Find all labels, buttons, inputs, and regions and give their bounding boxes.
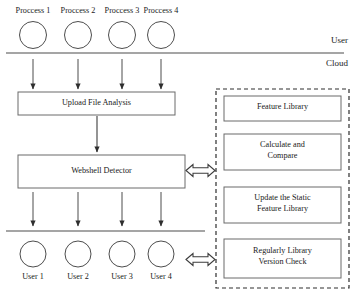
regularly-library-version-check-line-1: Regularly Library — [253, 246, 312, 255]
feature-library-label: Feature Library — [224, 102, 341, 113]
calculate-and-compare-label: Calculate and Compare — [224, 140, 341, 162]
user-circle-2 — [65, 241, 91, 267]
process-circle-3 — [109, 22, 136, 49]
calculate-and-compare-line-1: Calculate and — [260, 140, 305, 149]
update-static-feature-library-line-1: Update the Static — [254, 193, 310, 202]
process-circle-4 — [148, 22, 175, 49]
regularly-library-version-check-label: Regularly Library Version Check — [224, 246, 341, 268]
webshell-detector-label: Webshell Detector — [18, 166, 185, 177]
user-circle-3 — [109, 241, 135, 267]
process-label-4: Proccess 4 — [133, 6, 189, 17]
bidirectional-arrow-users-library — [186, 254, 215, 266]
user-label-4: User 4 — [133, 272, 189, 283]
webshell-architecture-diagram: User Cloud Proccess 1 Proccess 2 Procces… — [0, 0, 356, 300]
regularly-library-version-check-line-2: Version Check — [259, 257, 307, 266]
user-circle-4 — [148, 241, 174, 267]
bidirectional-arrow-detector-library — [186, 165, 215, 177]
process-circle-2 — [65, 22, 92, 49]
zone-label-user: User — [300, 35, 348, 47]
upload-file-analysis-label: Upload File Analysis — [18, 98, 175, 109]
zone-label-cloud: Cloud — [295, 58, 348, 70]
process-circle-1 — [20, 22, 47, 49]
user-circle-1 — [20, 241, 46, 267]
calculate-and-compare-line-2: Compare — [267, 151, 297, 160]
update-static-feature-library-line-2: Feature Library — [257, 204, 308, 213]
update-static-feature-library-label: Update the Static Feature Library — [224, 193, 341, 215]
